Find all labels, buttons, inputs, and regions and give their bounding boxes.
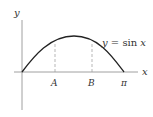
tick-label-b: B [87,78,95,88]
tick-label-pi: π [120,78,128,88]
x-axis-label: x [142,66,148,77]
curve-label-var: x [140,37,146,48]
curve-label-lhs: y = [101,37,122,48]
y-axis-label: y [13,7,20,18]
curve-label-fn: sin [122,37,137,48]
tick-label-a: A [50,78,58,88]
curve-label: y = sinx [101,37,146,48]
sine-diagram: y x y = sinx A B π [0,0,153,117]
